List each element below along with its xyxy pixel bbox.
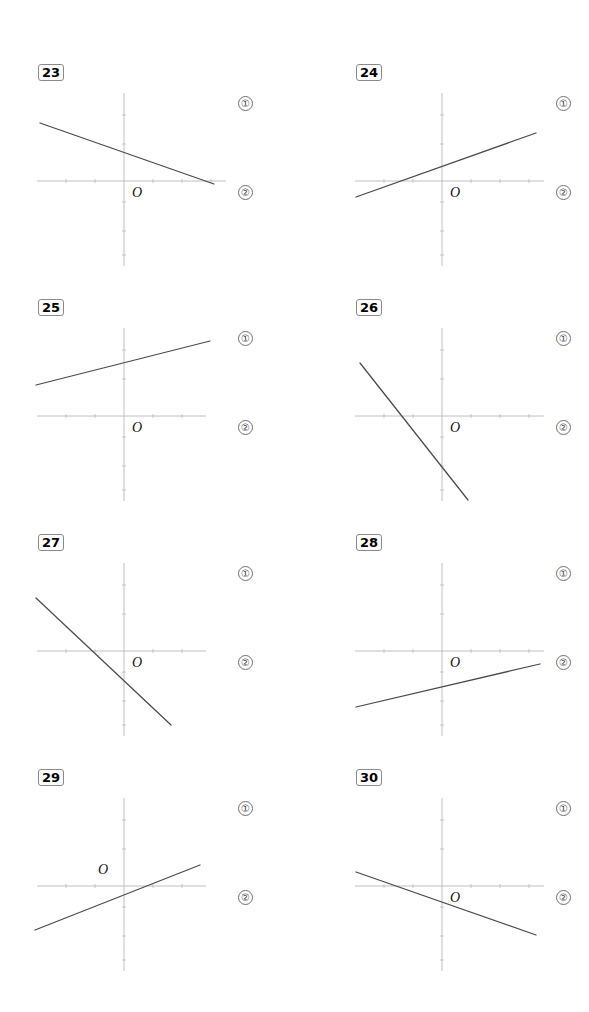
- problem-30: 30O①②: [348, 765, 589, 995]
- coordinate-plane: [348, 60, 589, 290]
- origin-label: O: [98, 862, 108, 878]
- origin-label: O: [450, 185, 460, 201]
- coordinate-plane: [348, 530, 589, 760]
- graphed-line: [356, 664, 540, 707]
- option-one-marker[interactable]: ①: [556, 96, 571, 111]
- option-one-marker[interactable]: ①: [556, 566, 571, 581]
- graphed-line: [356, 133, 536, 197]
- option-two-marker[interactable]: ②: [556, 655, 571, 670]
- problem-28: 28O①②: [348, 530, 589, 760]
- option-two-marker[interactable]: ②: [238, 655, 253, 670]
- origin-label: O: [450, 420, 460, 436]
- option-two-marker[interactable]: ②: [556, 890, 571, 905]
- worksheet-page: 23O①②24O①②25O①②26O①②27O①②28O①②29O①②30O①②: [0, 0, 589, 1012]
- option-one-marker[interactable]: ①: [238, 96, 253, 111]
- graphed-line: [35, 865, 200, 930]
- coordinate-plane: [30, 60, 290, 290]
- option-two-marker[interactable]: ②: [238, 420, 253, 435]
- origin-label: O: [132, 420, 142, 436]
- coordinate-plane: [30, 765, 290, 995]
- problem-24: 24O①②: [348, 60, 589, 290]
- problem-23: 23O①②: [30, 60, 290, 290]
- origin-label: O: [450, 890, 460, 906]
- option-one-marker[interactable]: ①: [238, 331, 253, 346]
- option-one-marker[interactable]: ①: [238, 801, 253, 816]
- option-two-marker[interactable]: ②: [238, 890, 253, 905]
- coordinate-plane: [30, 530, 290, 760]
- problem-29: 29O①②: [30, 765, 290, 995]
- coordinate-plane: [348, 765, 589, 995]
- option-one-marker[interactable]: ①: [556, 331, 571, 346]
- origin-label: O: [132, 185, 142, 201]
- graphed-line: [36, 341, 210, 385]
- option-one-marker[interactable]: ①: [238, 566, 253, 581]
- problem-27: 27O①②: [30, 530, 290, 760]
- graphed-line: [36, 598, 171, 725]
- origin-label: O: [132, 655, 142, 671]
- origin-label: O: [450, 655, 460, 671]
- option-one-marker[interactable]: ①: [556, 801, 571, 816]
- coordinate-plane: [30, 295, 290, 525]
- problem-26: 26O①②: [348, 295, 589, 525]
- option-two-marker[interactable]: ②: [556, 185, 571, 200]
- coordinate-plane: [348, 295, 589, 525]
- graphed-line: [40, 123, 214, 184]
- graphed-line: [356, 872, 536, 935]
- option-two-marker[interactable]: ②: [556, 420, 571, 435]
- option-two-marker[interactable]: ②: [238, 185, 253, 200]
- problem-25: 25O①②: [30, 295, 290, 525]
